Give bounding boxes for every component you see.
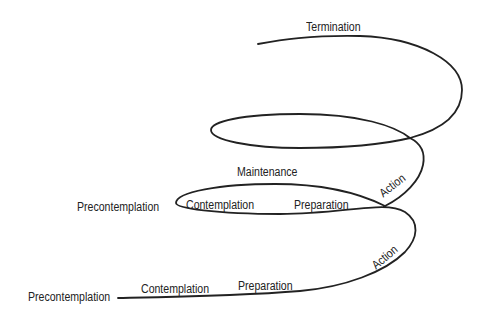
stages-of-change-spiral-diagram: Termination Maintenance Precontemplation… <box>0 0 481 320</box>
label-preparation-middle: Preparation <box>294 198 349 212</box>
label-contemplation-bottom: Contemplation <box>141 282 209 296</box>
label-preparation-bottom: Preparation <box>238 279 293 293</box>
label-precontemplation-middle: Precontemplation <box>77 200 159 214</box>
label-termination: Termination <box>306 20 361 34</box>
label-maintenance: Maintenance <box>237 165 297 179</box>
label-contemplation-middle: Contemplation <box>186 198 254 212</box>
spiral-path-graphic <box>0 0 481 320</box>
label-precontemplation-bottom: Precontemplation <box>28 290 110 304</box>
